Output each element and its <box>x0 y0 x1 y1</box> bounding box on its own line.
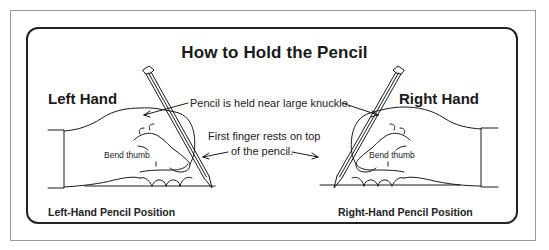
diagram-title: How to Hold the Pencil <box>0 43 549 63</box>
left-hand-heading: Left Hand <box>48 90 117 107</box>
right-hand-heading: Right Hand <box>399 90 479 107</box>
left-hand-caption: Left-Hand Pencil Position <box>48 206 175 218</box>
right-bend-thumb-label: Bend thumb <box>369 150 415 160</box>
right-cuff <box>481 128 498 187</box>
right-hand-drawing <box>320 66 498 188</box>
left-cuff <box>48 130 64 188</box>
left-bend-thumb-label: Bend thumb <box>104 150 150 160</box>
finger-annotation-line1: First finger rests on top <box>208 130 321 142</box>
right-hand-caption: Right-Hand Pencil Position <box>338 206 473 218</box>
knuckle-annotation: Pencil is held near large knuckle. <box>190 97 351 109</box>
finger-annotation-line2: of the pencil. <box>231 145 293 157</box>
left-hand-drawing <box>48 66 215 188</box>
